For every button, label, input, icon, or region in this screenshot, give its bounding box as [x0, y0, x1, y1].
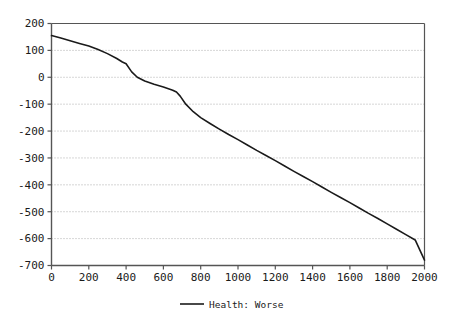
x-tick-label: 200	[79, 271, 99, 284]
y-tick-label: -700	[18, 259, 45, 272]
y-tick-label: -400	[18, 179, 45, 192]
x-tick-label: 600	[153, 271, 173, 284]
x-tick-label: 1800	[374, 271, 401, 284]
x-tick-label: 400	[116, 271, 136, 284]
y-tick-label: 200	[25, 17, 45, 30]
x-tick-label: 0	[48, 271, 55, 284]
y-tick-label: -300	[18, 152, 45, 165]
y-tick-label: -100	[18, 98, 45, 111]
x-tick-label: 1400	[299, 271, 326, 284]
line-chart: 0200400600800100012001400160018002000 20…	[0, 0, 452, 325]
x-tick-label: 2000	[411, 271, 438, 284]
y-tick-label: 100	[25, 44, 45, 57]
y-tick-label: -200	[18, 125, 45, 138]
y-tick-label: -500	[18, 206, 45, 219]
legend-entry-label: Health: Worse	[209, 299, 284, 310]
chart-container: 0200400600800100012001400160018002000 20…	[0, 0, 452, 325]
x-tick-label: 1600	[337, 271, 364, 284]
y-tick-label: -600	[18, 232, 45, 245]
x-tick-label: 1200	[262, 271, 289, 284]
x-tick-label: 800	[191, 271, 211, 284]
x-tick-label: 1000	[225, 271, 252, 284]
y-tick-label: 0	[38, 71, 45, 84]
